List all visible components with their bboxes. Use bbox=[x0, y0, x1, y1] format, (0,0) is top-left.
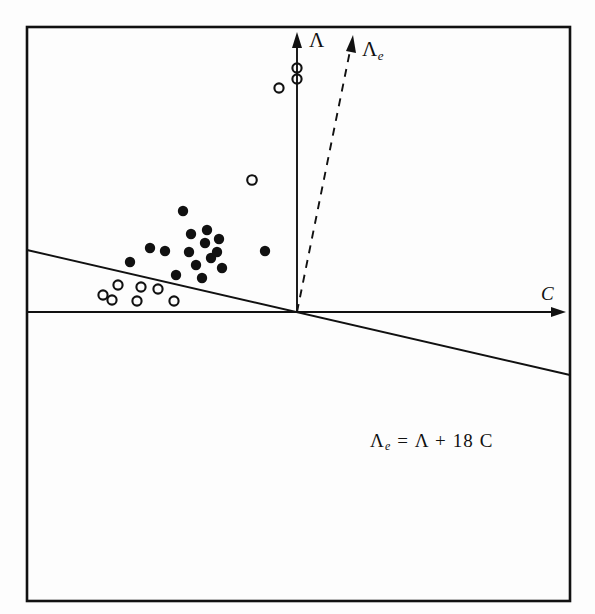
lambda-e-axis-label: Λe bbox=[362, 37, 384, 64]
data-point-filled bbox=[171, 270, 181, 280]
data-point-open bbox=[98, 290, 107, 299]
data-point-open bbox=[107, 295, 116, 304]
data-point-filled bbox=[160, 246, 170, 256]
data-point-open bbox=[274, 83, 283, 92]
data-point-open bbox=[113, 280, 122, 289]
data-point-filled bbox=[125, 257, 135, 267]
data-point-filled bbox=[212, 247, 222, 257]
data-point-filled bbox=[200, 238, 210, 248]
c-axis-label: C bbox=[541, 283, 554, 305]
filled-circle-series bbox=[125, 206, 270, 283]
lambda-axis-label: Λ bbox=[309, 28, 324, 53]
lambda-axis-arrowhead bbox=[292, 32, 302, 48]
data-point-filled bbox=[260, 246, 270, 256]
lambda-e-axis-line bbox=[297, 46, 351, 312]
equation-lhs-base: Λ bbox=[370, 430, 385, 451]
data-point-filled bbox=[202, 225, 212, 235]
data-point-open bbox=[136, 282, 145, 291]
data-point-open bbox=[247, 175, 257, 185]
data-point-open bbox=[169, 296, 178, 305]
data-point-filled bbox=[197, 273, 207, 283]
data-point-filled bbox=[217, 263, 227, 273]
data-point-filled bbox=[214, 234, 224, 244]
data-point-open bbox=[132, 296, 141, 305]
data-point-filled bbox=[191, 260, 201, 270]
data-point-open bbox=[153, 284, 162, 293]
scatter-figure: Λ Λe C Λe = Λ + 18 C bbox=[0, 0, 595, 614]
data-point-filled bbox=[145, 243, 155, 253]
figure-frame bbox=[27, 27, 570, 601]
lambda-e-axis-label-subscript: e bbox=[378, 48, 384, 63]
equation-annotation: Λe = Λ + 18 C bbox=[370, 430, 494, 454]
c-axis-arrowhead bbox=[551, 307, 566, 317]
plot-canvas bbox=[0, 0, 595, 614]
data-point-filled bbox=[184, 247, 194, 257]
data-point-filled bbox=[186, 229, 196, 239]
open-circle-series bbox=[98, 63, 301, 305]
lambda-e-axis-arrowhead bbox=[346, 35, 356, 53]
equation-rhs: = Λ + 18 C bbox=[391, 430, 493, 451]
data-point-filled bbox=[178, 206, 188, 216]
lambda-e-axis-label-base: Λ bbox=[362, 37, 377, 61]
